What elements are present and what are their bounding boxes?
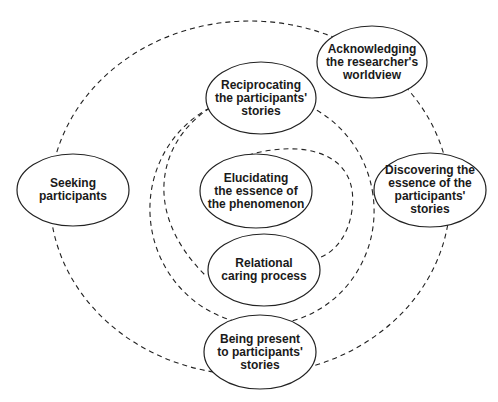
node-elucidating: Elucidating the essence of the phenomeno… bbox=[200, 154, 312, 228]
node-label-line: worldview bbox=[326, 69, 418, 82]
node-label-line: stories bbox=[215, 105, 307, 118]
node-seeking: Seeking participants bbox=[17, 154, 129, 226]
node-acknowledging: Acknowledging the researcher's worldview bbox=[317, 26, 427, 98]
node-label-line: Being present bbox=[217, 333, 303, 346]
node-label-line: stories bbox=[217, 359, 303, 372]
node-label-line: Elucidating bbox=[208, 172, 305, 185]
diagram-canvas: Acknowledging the researcher's worldview… bbox=[0, 0, 498, 402]
node-being-present: Being present to participants' stories bbox=[204, 315, 316, 389]
node-label-line: stories bbox=[385, 203, 475, 216]
node-label-line: caring process bbox=[221, 270, 306, 283]
node-reciprocating: Reciprocating the participants' stories bbox=[206, 62, 316, 134]
node-label-line: the researcher's bbox=[326, 56, 418, 69]
node-discovering: Discovering the essence of the participa… bbox=[374, 153, 486, 227]
node-label-line: the essence of bbox=[208, 185, 305, 198]
node-label-line: to participants' bbox=[217, 346, 303, 359]
node-label-line: Acknowledging bbox=[326, 43, 418, 56]
node-relational: Relational caring process bbox=[208, 234, 320, 306]
node-label-line: the participants' bbox=[215, 92, 307, 105]
node-label-line: participants bbox=[39, 190, 107, 203]
node-label-line: Reciprocating bbox=[215, 79, 307, 92]
node-label-line: the phenomenon bbox=[208, 198, 305, 211]
